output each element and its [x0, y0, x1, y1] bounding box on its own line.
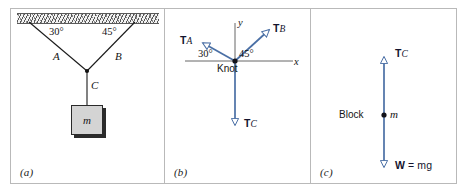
angle-left-label: 30°: [49, 26, 64, 37]
rope-a-label: A: [53, 50, 60, 62]
rope-c-label: C: [91, 79, 98, 91]
block-label: Block: [339, 109, 363, 120]
tension-c-label: TC: [244, 117, 257, 129]
rope-b-label: B: [115, 50, 122, 62]
angle-right-label: 45°: [239, 48, 254, 59]
weight-expression: = mg: [405, 159, 432, 171]
block-mass-label: m: [390, 108, 398, 120]
panel-c-caption: (c): [320, 166, 333, 178]
angle-left-label: 30°: [198, 48, 213, 59]
panel-a-caption: (a): [20, 166, 33, 178]
panel-b-caption: (b): [174, 166, 187, 178]
panel-a: 30° 45° A B C m (a): [10, 8, 165, 184]
panel-a-ropes: [11, 9, 164, 183]
tension-c-subscript: C: [251, 119, 257, 129]
tension-a-label: TA: [180, 34, 192, 46]
knot-label: Knot: [217, 63, 238, 74]
tension-c-subscript: C: [402, 49, 408, 59]
tension-b-subscript: B: [280, 24, 286, 34]
tension-a-subscript: A: [187, 36, 193, 46]
physics-figure: 30° 45° A B C m (a): [0, 0, 467, 196]
x-axis-label: x: [294, 56, 299, 67]
weight-label: W = mg: [395, 159, 432, 171]
block-mass-label: m: [83, 114, 91, 126]
panel-c-vectors: [311, 9, 456, 183]
tension-c-label: TC: [395, 47, 408, 59]
panel-b: y x 30° 45° Knot TA TB TC (b): [164, 8, 311, 184]
y-axis-label: y: [238, 17, 243, 28]
tension-b-label: TB: [273, 22, 285, 34]
panel-c: TC Block m W = mg (c): [310, 8, 457, 184]
angle-right-label: 45°: [102, 26, 117, 37]
hanging-block: m: [71, 105, 103, 135]
weight-symbol: W: [395, 159, 405, 171]
